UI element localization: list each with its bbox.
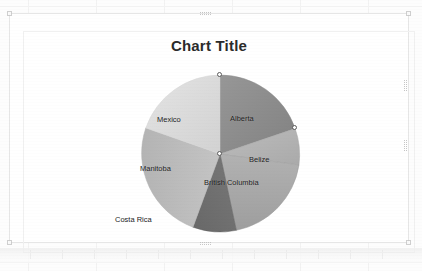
pie-label-alberta[interactable]: Alberta xyxy=(230,114,254,123)
pie-plot-area[interactable]: Alberta Belize British Columbia Costa Ri… xyxy=(138,72,302,236)
sheet-bottom-band-ticks xyxy=(0,250,422,259)
chart-title[interactable]: Chart Title xyxy=(10,37,408,54)
frame-handle-bottom-right[interactable] xyxy=(406,240,411,245)
pie-right-vertex-handle[interactable] xyxy=(292,125,297,130)
pie-label-costa-rica[interactable]: Costa Rica xyxy=(115,215,152,224)
pie-label-mexico[interactable]: Mexico xyxy=(157,115,181,124)
frame-handle-bottom-left[interactable] xyxy=(7,240,12,245)
grid-line xyxy=(0,6,422,7)
pie-label-british-columbia[interactable]: British Columbia xyxy=(204,178,259,187)
frame-handle-top-right[interactable] xyxy=(406,11,411,16)
frame-handle-top-center[interactable] xyxy=(200,12,211,15)
pie-top-vertex-handle[interactable] xyxy=(217,72,222,77)
pie-label-belize[interactable]: Belize xyxy=(249,155,269,164)
frame-handle-bottom-center[interactable] xyxy=(200,242,211,245)
chart-object-frame[interactable]: Chart Title xyxy=(9,13,409,243)
frame-handle-right-upper[interactable] xyxy=(404,80,407,91)
pie-center-handle[interactable] xyxy=(217,151,222,156)
pie-label-manitoba[interactable]: Manitoba xyxy=(140,164,171,173)
grid-line xyxy=(0,262,422,263)
frame-handle-right-middle[interactable] xyxy=(404,140,407,151)
frame-handle-top-left[interactable] xyxy=(7,11,12,16)
